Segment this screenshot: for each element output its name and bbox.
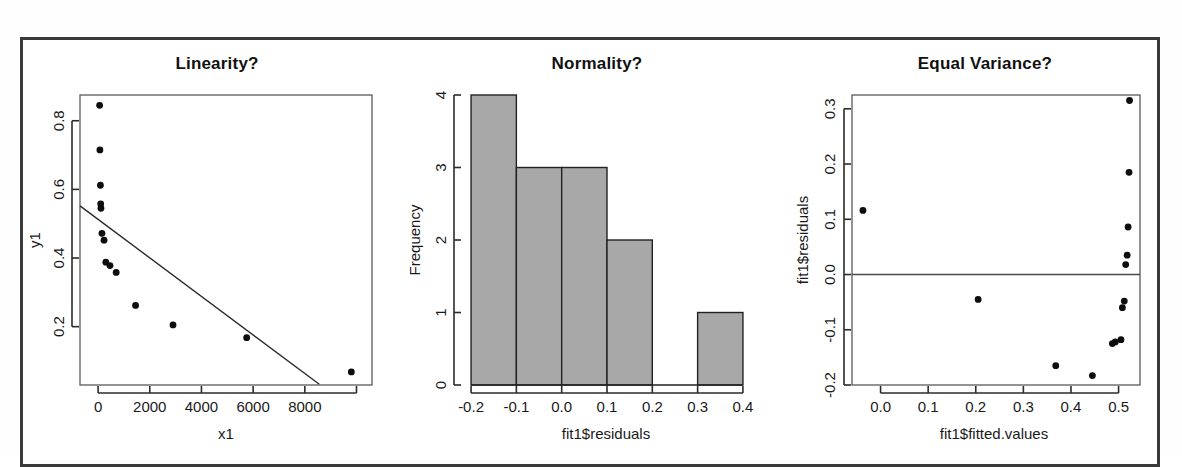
linearity-point <box>132 302 139 309</box>
normality-x-tick-label: 0.3 <box>687 398 708 415</box>
normality-histogram-bar <box>607 240 652 385</box>
linearity-x-tick-label: 2000 <box>133 398 166 415</box>
normality-x-tick-label: 0.0 <box>551 398 572 415</box>
equal-variance-x-axis: 0.00.10.20.30.40.5 <box>870 386 1129 415</box>
normality-y-axis: 01234 <box>432 91 461 389</box>
equal-variance-point <box>1126 97 1133 104</box>
linearity-x-tick-label: 6000 <box>236 398 269 415</box>
normality-histogram-bar <box>698 313 743 386</box>
linearity-point <box>113 269 120 276</box>
equal-variance-y-axis: -0.2-0.10.00.10.20.3 <box>821 98 851 398</box>
normality-x-tick-label: -0.1 <box>503 398 529 415</box>
normality-svg: 01234 -0.2-0.10.00.10.20.30.4 fit1$resid… <box>400 37 794 455</box>
equal-variance-point <box>1052 362 1059 369</box>
equal-variance-point <box>1124 252 1131 259</box>
linearity-svg: 0.20.40.60.8 02000400060008000 x1 y1 <box>20 37 414 455</box>
equal-variance-y-tick-label: 0.2 <box>821 154 838 175</box>
linearity-x-tick-label: 8000 <box>288 398 321 415</box>
normality-x-axis: -0.2-0.10.00.10.20.30.4 <box>458 386 753 415</box>
panel-linearity: Linearity? 0.20.40.60.8 0200040006000800… <box>20 37 414 455</box>
panel-normality: Normality? 01234 -0.2-0.10.00.10.20.30.4… <box>400 37 794 455</box>
linearity-point <box>348 369 355 376</box>
equal-variance-y-tick-label: 0.0 <box>821 264 838 285</box>
panel-normality-plot: 01234 -0.2-0.10.00.10.20.30.4 fit1$resid… <box>400 37 794 455</box>
equal-variance-point <box>1089 372 1096 379</box>
equal-variance-y-tick-label: 0.3 <box>821 98 838 119</box>
linearity-y-tick-label: 0.2 <box>50 316 67 337</box>
equal-variance-y-axis-title: fit1$residuals <box>794 196 811 284</box>
equal-variance-point <box>1121 298 1128 305</box>
equal-variance-point <box>1125 224 1132 231</box>
normality-x-tick-label: -0.2 <box>458 398 484 415</box>
normality-x-tick-label: 0.1 <box>597 398 618 415</box>
equal-variance-y-tick-label: 0.1 <box>821 209 838 230</box>
equal-variance-x-axis-title: fit1$fitted.values <box>940 425 1048 442</box>
linearity-y-axis: 0.20.40.60.8 <box>50 110 79 337</box>
normality-y-axis-title: Frequency <box>406 204 423 275</box>
linearity-x-axis: 02000400060008000 <box>94 386 357 415</box>
equal-variance-x-tick-label: 0.0 <box>870 398 891 415</box>
panel-equal-variance: Equal Variance? -0.2-0.10.00.10.20.3 0.0… <box>788 37 1182 455</box>
normality-histogram-bar <box>516 168 561 386</box>
normality-x-axis-title: fit1$residuals <box>562 425 650 442</box>
equal-variance-y-tick-label: -0.2 <box>821 372 838 398</box>
equal-variance-x-tick-label: 0.2 <box>965 398 986 415</box>
equal-variance-point <box>1122 261 1129 268</box>
equal-variance-y-tick-label: -0.1 <box>821 317 838 343</box>
equal-variance-point <box>1119 304 1126 311</box>
normality-histogram-bars <box>471 95 743 385</box>
linearity-data-points <box>96 102 354 375</box>
panel-equal-variance-plot: -0.2-0.10.00.10.20.3 0.00.10.20.30.40.5 … <box>788 37 1182 455</box>
linearity-point <box>243 334 250 341</box>
normality-x-tick-label: 0.4 <box>733 398 754 415</box>
linearity-y-tick-label: 0.4 <box>50 248 67 269</box>
normality-y-tick-label: 3 <box>432 163 449 171</box>
equal-variance-point <box>1126 169 1133 176</box>
linearity-x-tick-label: 4000 <box>185 398 218 415</box>
equal-variance-plot-box <box>852 95 1140 385</box>
equal-variance-x-tick-label: 0.5 <box>1108 398 1129 415</box>
linearity-x-tick-label: 0 <box>94 398 102 415</box>
equal-variance-data-points <box>860 97 1133 379</box>
equal-variance-x-tick-label: 0.4 <box>1061 398 1082 415</box>
linearity-point <box>99 230 106 237</box>
linearity-plot-box <box>80 95 372 385</box>
linearity-point <box>96 147 103 154</box>
normality-y-tick-label: 1 <box>432 308 449 316</box>
linearity-point <box>96 102 103 109</box>
linearity-point <box>97 182 104 189</box>
normality-y-tick-label: 4 <box>432 91 449 99</box>
normality-x-tick-label: 0.2 <box>642 398 663 415</box>
linearity-point <box>98 205 105 212</box>
normality-y-tick-label: 2 <box>432 236 449 244</box>
equal-variance-point <box>1118 336 1125 343</box>
normality-histogram-bar <box>471 95 516 385</box>
normality-y-tick-label: 0 <box>432 381 449 389</box>
equal-variance-x-tick-label: 0.3 <box>1013 398 1034 415</box>
linearity-fit-line <box>80 206 319 384</box>
normality-histogram-bar <box>562 168 607 386</box>
panel-linearity-plot: 0.20.40.60.8 02000400060008000 x1 y1 <box>20 37 414 455</box>
linearity-point <box>170 322 177 329</box>
linearity-point <box>101 237 108 244</box>
linearity-y-axis-title: y1 <box>26 232 43 248</box>
equal-variance-svg: -0.2-0.10.00.10.20.3 0.00.10.20.30.40.5 … <box>788 37 1182 455</box>
equal-variance-point <box>975 296 982 303</box>
linearity-y-tick-label: 0.6 <box>50 179 67 200</box>
linearity-point <box>107 262 114 269</box>
equal-variance-point <box>860 207 867 214</box>
equal-variance-x-tick-label: 0.1 <box>918 398 939 415</box>
linearity-y-tick-label: 0.8 <box>50 110 67 131</box>
linearity-x-axis-title: x1 <box>218 425 234 442</box>
